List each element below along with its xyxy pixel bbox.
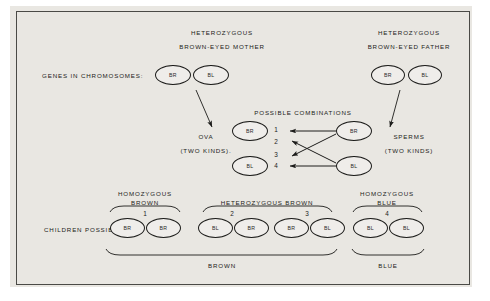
child-4-allele-oval-1: BL <box>353 218 388 238</box>
arrow-sperm-br-to-slot-3 <box>292 134 336 156</box>
possible-combinations-heading: POSSIBLE COMBINATIONS <box>254 109 352 116</box>
child-2-allele-oval-1: BL <box>198 218 233 238</box>
mother-allele-oval-1: BR <box>155 65 191 85</box>
sperms-label-line2: (TWO KINDS) <box>385 147 434 154</box>
father-allele-oval-2: BL <box>408 65 442 85</box>
brace-heterozygous-brown <box>203 206 332 212</box>
phenotype-brown-label: BROWN <box>208 262 236 269</box>
allele-text: BL <box>212 225 219 231</box>
combination-number-1: 1 <box>274 126 278 133</box>
child-1-allele-oval-1: BR <box>110 218 145 238</box>
father-title-line2: BROWN-EYED FATHER <box>368 43 451 50</box>
child-2-allele-oval-2: BR <box>234 218 269 238</box>
allele-text: BL <box>324 225 331 231</box>
children-group2-number: 2 <box>230 210 234 217</box>
mother-allele-oval-2: BL <box>193 65 229 85</box>
children-group4-number: 4 <box>385 210 389 217</box>
allele-text: BR <box>247 225 255 231</box>
children-group1-number: 1 <box>143 210 147 217</box>
allele-text: BR <box>169 72 177 78</box>
children-heterozygous-brown-label: HETEROZYGOUS BROWN <box>221 199 314 206</box>
allele-text: BR <box>384 72 392 78</box>
combination-number-3: 3 <box>274 151 278 158</box>
child-1-allele-oval-2: BR <box>146 218 181 238</box>
brace-phenotype-brown <box>106 249 337 255</box>
father-allele-oval-1: BR <box>371 65 405 85</box>
ova-label-line1: OVA <box>198 133 213 140</box>
children-group4-zygosity-line2: BLUE <box>377 199 397 206</box>
arrow-father-to-sperms <box>390 90 400 127</box>
allele-text: BL <box>246 163 253 169</box>
allele-text: BL <box>207 72 214 78</box>
genes-in-chromosomes-label: GENES IN CHROMOSOMES: <box>42 72 143 79</box>
ova-label-line2: (TWO KINDS). <box>180 147 231 154</box>
allele-text: BR <box>246 128 254 134</box>
child-3-allele-oval-2: BL <box>310 218 345 238</box>
allele-text: BR <box>287 225 295 231</box>
mother-title-line2: BROWN-EYED MOTHER <box>179 43 265 50</box>
allele-text: BL <box>421 72 428 78</box>
phenotype-blue-label: BLUE <box>378 262 398 269</box>
ova-oval-bl: BL <box>232 156 268 176</box>
sperms-label-line1: SPERMS <box>393 133 424 140</box>
allele-text: BR <box>350 128 358 134</box>
combination-number-4: 4 <box>274 162 278 169</box>
allele-text: BR <box>159 225 167 231</box>
children-group4-zygosity-line1: HOMOZYGOUS <box>360 190 414 197</box>
children-group1-zygosity-line1: HOMOZYGOUS <box>118 190 172 197</box>
allele-text: BL <box>350 163 357 169</box>
father-title-line1: HETEROZYGOUS <box>378 29 440 36</box>
brace-phenotype-blue <box>352 249 424 255</box>
sperm-oval-bl: BL <box>336 156 372 176</box>
allele-text: BL <box>367 225 374 231</box>
diagram-page: HETEROZYGOUS BROWN-EYED MOTHER HETEROZYG… <box>0 0 490 301</box>
allele-text: BL <box>403 225 410 231</box>
ova-oval-br: BR <box>232 121 268 141</box>
child-3-allele-oval-1: BR <box>274 218 309 238</box>
child-4-allele-oval-2: BL <box>389 218 424 238</box>
arrow-sperm-bl-to-slot-2 <box>292 141 336 163</box>
sperm-oval-br: BR <box>336 121 372 141</box>
combination-number-2: 2 <box>274 138 278 145</box>
children-group1-zygosity-line2: BROWN <box>131 199 159 206</box>
children-group3-number: 3 <box>305 210 309 217</box>
arrow-mother-to-ova <box>196 90 212 127</box>
mother-title-line1: HETEROZYGOUS <box>191 29 253 36</box>
allele-text: BR <box>123 225 131 231</box>
